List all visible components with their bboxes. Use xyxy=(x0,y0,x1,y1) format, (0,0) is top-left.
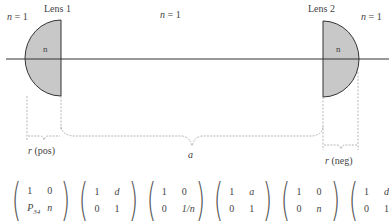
cell: 1 xyxy=(297,186,305,197)
cell: 0 xyxy=(95,203,103,214)
a-label: a xyxy=(188,150,193,160)
guide-lines xyxy=(27,72,358,150)
cell: a xyxy=(249,186,257,197)
cell: n xyxy=(47,202,55,216)
matrix-product: ( 1 0 P34 n ) ( 1 d 0 1 ) ( 1 0 0 1/n ) … xyxy=(8,178,389,222)
cell: 0 xyxy=(47,185,55,196)
cell: P34 xyxy=(27,202,35,216)
lens-1-label: Lens 1 xyxy=(44,4,71,14)
cell: n xyxy=(317,203,325,214)
r-pos-brace xyxy=(28,136,60,140)
lens-2-label: Lens 2 xyxy=(308,4,335,14)
cell: 1 xyxy=(95,186,103,197)
cell: 1 xyxy=(162,186,170,197)
r-neg-label: r (neg) xyxy=(325,156,353,166)
lens-1-shape xyxy=(25,20,61,96)
a-brace xyxy=(61,127,323,146)
cell: 0 xyxy=(364,203,372,214)
cell: 1 xyxy=(384,203,389,214)
cell: 0 xyxy=(229,203,237,214)
cell: 0 xyxy=(162,203,170,214)
r-neg-brace xyxy=(324,145,357,149)
r-pos-label: r (pos) xyxy=(28,146,55,156)
matrix-4: ( 1 0 0 n ) xyxy=(277,178,343,222)
cell: 0 xyxy=(297,203,305,214)
cell: 1/n xyxy=(182,203,190,214)
n-right-label: n = 1 xyxy=(361,12,382,22)
n-middle-label: n = 1 xyxy=(160,10,181,20)
n-left-label: n = 1 xyxy=(7,12,28,22)
cell: 1 xyxy=(229,186,237,197)
cell: d xyxy=(115,186,123,197)
lens-2-index: n xyxy=(336,45,341,54)
matrix-2: ( 1 0 0 1/n ) xyxy=(143,178,209,222)
matrix-1: ( 1 d 0 1 ) xyxy=(75,178,141,222)
matrix-0: ( 1 0 P34 n ) xyxy=(8,178,74,222)
cell: 0 xyxy=(182,186,190,197)
cell: 1 xyxy=(115,203,123,214)
cell: 0 xyxy=(317,186,325,197)
matrix-5: ( 1 d 0 1 ) xyxy=(345,178,389,222)
cell: d xyxy=(384,186,389,197)
cell: 1 xyxy=(27,185,35,196)
matrix-3: ( 1 a 0 1 ) xyxy=(210,178,276,222)
cell: 1 xyxy=(249,203,257,214)
cell: 1 xyxy=(364,186,372,197)
lens-1-index: n xyxy=(43,45,48,54)
